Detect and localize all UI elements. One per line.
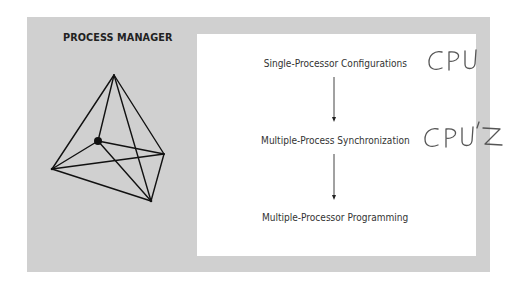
- step-label: Multiple-Process Synchronization: [261, 134, 410, 146]
- arrow-down-icon: [333, 77, 335, 123]
- step-label: Multiple-Processor Programming: [262, 211, 408, 223]
- arrow-down-icon: [333, 154, 335, 201]
- step-single-processor: Single-Processor Configurations: [197, 57, 473, 69]
- diagram-canvas: PROCESS MANAGER Single-Processor Configu…: [0, 0, 526, 297]
- step-multiple-process-sync: Multiple-Process Synchronization: [197, 134, 473, 146]
- step-multiple-processor-programming: Multiple-Processor Programming: [197, 211, 473, 223]
- diagram-title: PROCESS MANAGER: [63, 31, 172, 44]
- step-label: Single-Processor Configurations: [263, 57, 406, 69]
